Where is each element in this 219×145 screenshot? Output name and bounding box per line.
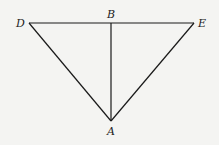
segment-EA: [111, 23, 194, 121]
label-E: E: [197, 17, 206, 30]
label-B: B: [106, 8, 115, 21]
triangle-diagram: D B E A: [0, 0, 219, 145]
segment-DA: [29, 23, 111, 121]
label-D: D: [15, 17, 25, 30]
label-A: A: [106, 125, 115, 138]
